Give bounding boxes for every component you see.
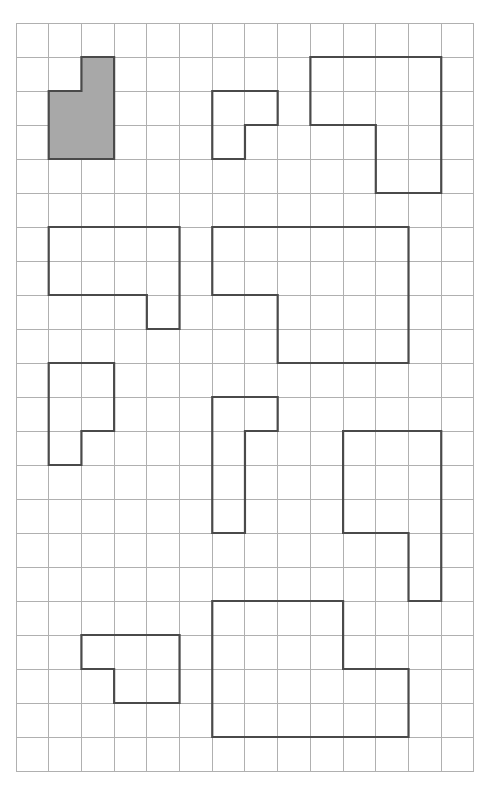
grid-diagram (0, 0, 493, 789)
shape-8 (343, 431, 441, 601)
grid-svg (0, 0, 493, 789)
shape-1-shaded (49, 57, 114, 159)
